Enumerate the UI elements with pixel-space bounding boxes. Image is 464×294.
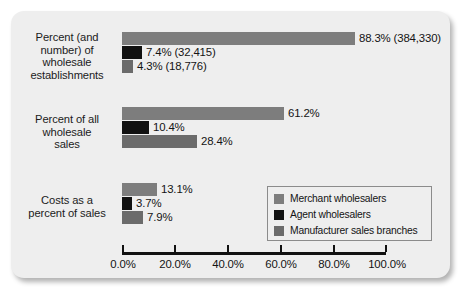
bar-manufacturer-costs	[122, 211, 143, 224]
category-label-line: wholesale	[15, 56, 119, 69]
category-label-establishments: Percent (and number) of wholesale establ…	[15, 31, 119, 81]
legend-swatch-agent-icon	[274, 210, 284, 220]
chart-panel: Percent (and number) of wholesale establ…	[11, 11, 450, 278]
category-label-line: Costs as a	[15, 194, 119, 207]
value-label-agent-establishments: 7.4% (32,415)	[146, 46, 216, 59]
legend-swatch-merchant-icon	[274, 194, 284, 204]
x-axis-tick	[385, 245, 387, 252]
x-axis-tick	[280, 245, 282, 252]
x-axis-tick	[174, 245, 176, 252]
x-axis-tick-label: 80.0%	[304, 258, 364, 271]
x-axis-tick-label: 40.0%	[198, 258, 258, 271]
chart-legend: Merchant wholesalers Agent wholesalers M…	[267, 186, 432, 241]
value-label-merchant-costs: 13.1%	[161, 183, 193, 196]
plot-area: Percent (and number) of wholesale establ…	[11, 11, 450, 278]
bar-manufacturer-establishments	[122, 60, 133, 73]
value-label-agent-costs: 3.7%	[136, 197, 161, 210]
value-label-merchant-sales: 61.2%	[288, 107, 320, 120]
value-label-manufacturer-establishments: 4.3% (18,776)	[137, 60, 207, 73]
bar-merchant-sales	[122, 107, 284, 120]
x-axis-tick-label: 100.0%	[357, 258, 417, 271]
bar-merchant-costs	[122, 183, 157, 196]
legend-label-agent: Agent wholesalers	[290, 208, 371, 222]
x-axis-tick	[227, 245, 229, 252]
value-label-merchant-establishments: 88.3% (384,330)	[359, 32, 441, 45]
x-axis-tick	[333, 245, 335, 252]
category-label-line: percent of sales	[15, 207, 119, 220]
chart-figure: Percent (and number) of wholesale establ…	[0, 0, 464, 294]
x-axis-tick-label: 60.0%	[251, 258, 311, 271]
bar-merchant-establishments	[122, 32, 355, 45]
bar-manufacturer-sales	[122, 135, 197, 148]
value-label-manufacturer-sales: 28.4%	[201, 135, 233, 148]
category-label-line: Percent (and	[15, 31, 119, 44]
category-label-line: wholesale	[15, 126, 119, 139]
category-label-line: number) of	[15, 44, 119, 57]
category-label-sales: Percent of all wholesale sales	[15, 113, 119, 151]
x-axis-tick	[122, 245, 124, 252]
legend-swatch-manufacturer-icon	[274, 226, 284, 236]
bar-agent-costs	[122, 197, 132, 210]
legend-label-merchant: Merchant wholesalers	[290, 192, 386, 206]
legend-label-manufacturer: Manufacturer sales branches	[290, 224, 417, 238]
bar-agent-sales	[122, 121, 149, 134]
value-label-agent-sales: 10.4%	[153, 121, 185, 134]
x-axis-tick-label: 20.0%	[145, 258, 205, 271]
category-label-line: sales	[15, 138, 119, 151]
category-label-line: establishments	[15, 69, 119, 82]
bar-agent-establishments	[122, 46, 142, 59]
x-axis-tick-label: 0.0%	[93, 258, 153, 271]
category-label-line: Percent of all	[15, 113, 119, 126]
value-label-manufacturer-costs: 7.9%	[147, 211, 172, 224]
x-axis-line	[122, 252, 386, 255]
category-label-costs: Costs as a percent of sales	[15, 194, 119, 219]
